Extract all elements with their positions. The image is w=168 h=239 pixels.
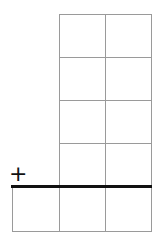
grid-line: [105, 14, 106, 231]
grid-line: [59, 14, 60, 231]
plus-operator: +: [9, 163, 27, 185]
grid-line: [151, 14, 152, 231]
grid-line: [12, 231, 152, 232]
grid-line: [12, 186, 13, 231]
sum-line: [11, 185, 152, 188]
